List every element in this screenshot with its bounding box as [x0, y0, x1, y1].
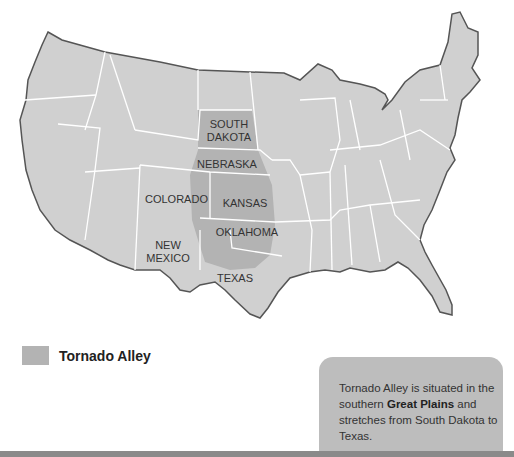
label-line: KANSAS	[220, 197, 270, 210]
label-line: OKLAHOMA	[214, 226, 280, 239]
label-south-dakota: SOUTH DAKOTA	[206, 118, 252, 144]
label-nebraska: NEBRASKA	[196, 158, 258, 171]
label-colorado: COLORADO	[145, 193, 207, 206]
label-line: TEXAS	[212, 272, 258, 285]
label-line: NEW	[145, 239, 191, 252]
legend-swatch	[22, 346, 49, 365]
label-line: MEXICO	[145, 252, 191, 265]
label-line: NEBRASKA	[196, 158, 258, 171]
label-line: DAKOTA	[206, 131, 252, 144]
label-kansas: KANSAS	[220, 197, 270, 210]
info-text-bold: Great Plains	[387, 398, 454, 410]
label-line: COLORADO	[145, 193, 207, 206]
label-oklahoma: OKLAHOMA	[214, 226, 280, 239]
legend: Tornado Alley	[22, 346, 151, 365]
bottom-bar	[0, 451, 514, 457]
label-new-mexico: NEW MEXICO	[145, 239, 191, 265]
legend-label: Tornado Alley	[59, 348, 151, 364]
label-texas: TEXAS	[212, 272, 258, 285]
label-line: SOUTH	[206, 118, 252, 131]
info-text: Tornado Alley is situated in the souther…	[339, 380, 499, 444]
